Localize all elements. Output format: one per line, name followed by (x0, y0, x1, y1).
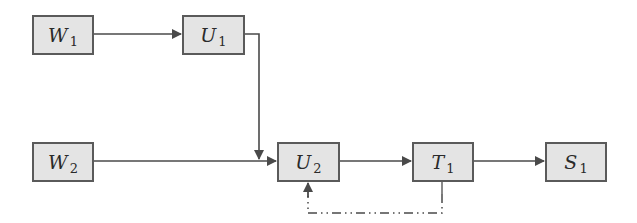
node-u1: U1 (182, 15, 245, 55)
node-w2-subscript: 2 (70, 161, 78, 176)
node-s1-label: S (564, 151, 577, 173)
node-t1: T1 (412, 142, 474, 182)
node-t1-subscript: 1 (446, 161, 454, 176)
edge-u1-u2 (245, 34, 259, 159)
node-w2: W2 (32, 142, 94, 182)
node-t1-label: T (432, 151, 445, 173)
block-diagram: W1 U1 W2 U2 T1 S1 (0, 0, 637, 223)
connectors-layer (0, 0, 637, 223)
node-w1-label: W (48, 24, 68, 46)
node-s1: S1 (545, 142, 607, 182)
node-u1-label: U (200, 24, 216, 46)
node-w2-label: W (48, 151, 68, 173)
node-u2: U2 (277, 142, 340, 182)
node-s1-subscript: 1 (579, 161, 587, 176)
node-u2-subscript: 2 (313, 161, 321, 176)
node-w1-subscript: 1 (70, 34, 78, 49)
node-u1-subscript: 1 (218, 34, 226, 49)
node-w1: W1 (32, 15, 94, 55)
edge-t1-u2-feedback (308, 194, 442, 213)
node-u2-label: U (295, 151, 311, 173)
